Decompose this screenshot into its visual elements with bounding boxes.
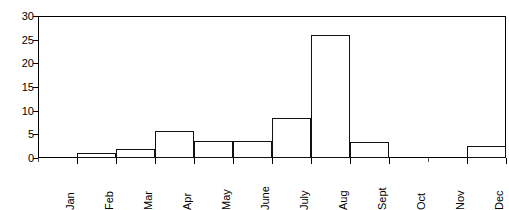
x-axis-tick-label-sept: Sept	[375, 166, 389, 210]
x-axis-tick-label-jan: Jan	[63, 166, 77, 210]
x-axis-tick-mark	[233, 158, 234, 164]
bars-layer	[38, 16, 506, 158]
x-axis-tick-label-dec: Dec	[492, 166, 506, 210]
bar-sept	[350, 142, 389, 158]
y-axis-tick-label: 20	[0, 58, 34, 69]
x-axis-tick-mark	[467, 158, 468, 164]
bar-aug	[311, 35, 350, 158]
x-axis-tick-mark	[77, 158, 78, 164]
bar-mar	[116, 149, 155, 158]
x-axis-tick-label-nov: Nov	[453, 166, 467, 210]
y-axis: 051015202530	[0, 0, 34, 210]
y-axis-tick-label: 0	[0, 153, 34, 164]
x-axis-tick-label-july: July	[297, 166, 311, 210]
x-axis-tick-mark	[272, 158, 273, 164]
x-axis-tick-mark	[155, 158, 156, 164]
y-axis-tick-label: 15	[0, 82, 34, 93]
x-axis-tick-label-apr: Apr	[180, 166, 194, 210]
x-axis-tick-mark	[389, 158, 390, 164]
bar-chart: 051015202530 JanFebMarAprMayJuneJulyAugS…	[0, 0, 509, 210]
x-axis-tick-mark	[350, 158, 351, 164]
y-axis-tick-label: 30	[0, 11, 34, 22]
y-axis-tick-label: 10	[0, 105, 34, 116]
bar-july	[272, 118, 311, 158]
bar-dec	[467, 146, 506, 158]
x-axis-tick-label-oct: Oct	[414, 166, 428, 210]
bar-may	[194, 141, 233, 158]
x-axis-labels: JanFebMarAprMayJuneJulyAugSeptOctNovDec	[38, 166, 506, 210]
x-axis-tick-mark	[506, 158, 507, 164]
x-axis-tick-mark	[38, 158, 39, 162]
bar-apr	[155, 131, 194, 158]
x-axis-tickmarks	[38, 158, 506, 165]
bar-june	[233, 141, 272, 158]
x-axis-tick-mark	[311, 158, 312, 164]
y-axis-tick-label: 25	[0, 34, 34, 45]
x-axis-tick-label-june: June	[258, 166, 272, 210]
x-axis-tick-label-aug: Aug	[336, 166, 350, 210]
x-axis-tick-mark	[116, 158, 117, 164]
x-axis-tick-mark	[194, 158, 195, 164]
x-axis-tick-mark	[428, 158, 429, 162]
x-axis-tick-label-mar: Mar	[141, 166, 155, 210]
y-axis-tick-label: 5	[0, 129, 34, 140]
x-axis-tick-label-feb: Feb	[102, 166, 116, 210]
x-axis-tick-label-may: May	[219, 166, 233, 210]
